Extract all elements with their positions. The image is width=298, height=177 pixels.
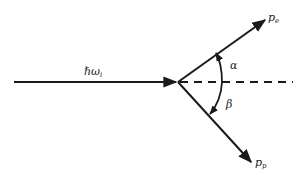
proton-momentum-label: pp: [255, 156, 267, 170]
electron-momentum-label: pe: [268, 11, 279, 25]
beta-angle-arc: [210, 82, 222, 114]
proton-momentum-arrow: [178, 82, 251, 162]
alpha-angle-label: α: [230, 59, 238, 72]
beta-angle-label: β: [225, 98, 232, 111]
alpha-angle-arc: [216, 53, 222, 82]
scattering-diagram: ℏωi pe pp α β: [0, 0, 298, 177]
incident-photon-label: ℏωi: [84, 65, 102, 79]
